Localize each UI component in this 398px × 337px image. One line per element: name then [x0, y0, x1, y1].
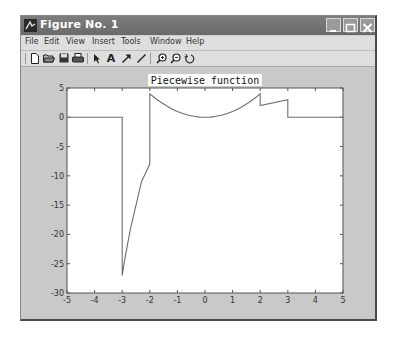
print-icon[interactable] [72, 52, 84, 64]
x-tick-label: 1 [230, 296, 235, 305]
arrow-pointer-icon[interactable] [91, 52, 103, 64]
x-tick-label: -1 [173, 296, 181, 305]
x-tick-label: 0 [202, 296, 207, 305]
toolbar: A [21, 51, 375, 67]
figure-window: Figure No. 1 File Edit View Insert Tools… [20, 15, 377, 321]
toolbar-separator [87, 53, 88, 64]
y-tick-label: 0 [59, 113, 64, 122]
x-tick-label: 2 [258, 296, 263, 305]
open-folder-icon[interactable] [43, 52, 55, 64]
chart-title: Piecewise function [151, 75, 259, 86]
menu-tools[interactable]: Tools [121, 37, 141, 46]
y-tick-label: -5 [56, 143, 64, 152]
y-tick-label: -25 [51, 260, 64, 269]
menu-edit[interactable]: Edit [44, 37, 60, 46]
window-title: Figure No. 1 [40, 18, 119, 31]
toolbar-separator [150, 53, 151, 64]
new-file-icon[interactable] [29, 52, 41, 64]
plot-area [67, 88, 343, 293]
menu-bar: File Edit View Insert Tools Window Help [21, 36, 375, 51]
y-tick-label: 5 [59, 84, 64, 93]
menu-help[interactable]: Help [186, 37, 204, 46]
x-tick-label: -2 [146, 296, 154, 305]
menu-file[interactable]: File [25, 37, 38, 46]
toolbar-separator [25, 53, 26, 64]
maximize-button[interactable] [343, 18, 358, 32]
line-icon[interactable] [135, 52, 147, 64]
x-tick-label: -3 [118, 296, 126, 305]
zoom-in-icon[interactable] [155, 52, 167, 64]
x-tick-label: 5 [340, 296, 345, 305]
rotate-icon[interactable] [183, 52, 195, 64]
menu-window[interactable]: Window [150, 37, 182, 46]
y-tick-label: -10 [51, 172, 64, 181]
arrow-icon[interactable] [120, 52, 132, 64]
x-tick-label: -4 [91, 296, 99, 305]
x-tick-label: 4 [313, 296, 318, 305]
zoom-out-icon[interactable] [169, 52, 181, 64]
minimize-button[interactable] [326, 18, 341, 32]
title-bar[interactable]: Figure No. 1 [21, 16, 375, 35]
x-tick-label: 3 [285, 296, 290, 305]
piecewise-chart: Piecewise function-5-4-3-2-101234550-5-1… [21, 67, 376, 319]
menu-insert[interactable]: Insert [92, 37, 115, 46]
y-tick-label: -15 [51, 201, 64, 210]
matlab-logo-icon [24, 19, 37, 32]
save-icon[interactable] [58, 52, 70, 64]
close-button[interactable] [360, 18, 375, 32]
menu-view[interactable]: View [66, 37, 85, 46]
x-tick-label: -5 [63, 296, 71, 305]
y-tick-label: -30 [51, 289, 64, 298]
figure-canvas: Piecewise function-5-4-3-2-101234550-5-1… [21, 67, 375, 319]
text-icon[interactable]: A [105, 52, 117, 64]
y-tick-label: -20 [51, 230, 64, 239]
